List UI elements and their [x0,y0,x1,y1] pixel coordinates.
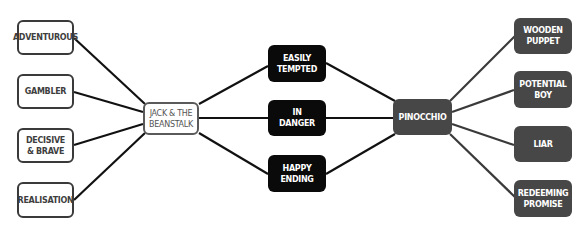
connector-line [450,35,516,101]
double-bubble-map: ADVENTUROUS GAMBLER DECISIVE & BRAVE REA… [0,0,583,225]
connector-line [326,134,395,174]
connector-line [199,133,268,174]
trait-realisation: REALISATION [17,182,74,218]
connector-line [326,63,395,101]
connector-line [452,124,514,145]
trait-redeeming-promise: REDEEMING PROMISE [514,180,572,217]
hub-jack-and-the-beanstalk: JACK & THE BEANSTALK [143,102,199,135]
trait-decisive-brave: DECISIVE & BRAVE [17,128,74,163]
connector-line [452,90,514,112]
trait-wooden-puppet: WOODEN PUPPET [514,18,572,54]
shared-in-danger: IN DANGER [268,100,326,136]
hub-pinocchio: PINOCCHIO [393,99,452,135]
trait-gambler: GAMBLER [17,74,74,109]
connector-line [74,133,145,200]
connector-line [74,92,143,112]
trait-adventurous: ADVENTUROUS [17,20,74,55]
connector-line [199,66,268,104]
connector-line [450,134,516,198]
shared-easily-tempted: EASILY TEMPTED [268,45,326,82]
shared-happy-ending: HAPPY ENDING [268,155,326,192]
trait-liar: LIAR [514,126,572,162]
connector-line [74,124,143,145]
trait-potential-boy: POTENTIAL BOY [514,71,572,108]
